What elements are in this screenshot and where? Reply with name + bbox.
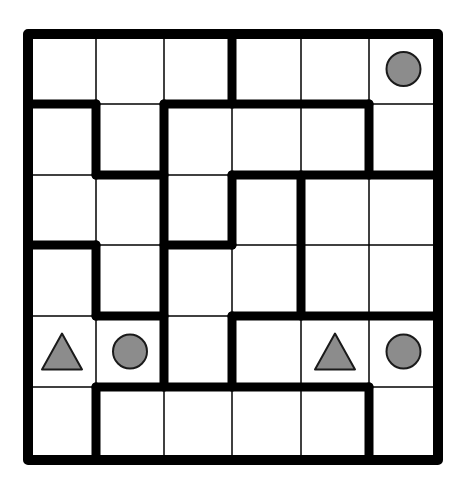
grid-cell[interactable]: [301, 175, 369, 245]
grid-cell[interactable]: [232, 175, 301, 245]
grid-cell[interactable]: [301, 34, 369, 104]
grid-cell[interactable]: [232, 34, 301, 104]
grid-cell[interactable]: [28, 104, 96, 175]
grid-cell[interactable]: [369, 245, 438, 316]
grid-cell[interactable]: [301, 387, 369, 460]
circle-icon: [113, 335, 147, 369]
grid-cell[interactable]: [164, 245, 232, 316]
grid-cell[interactable]: [301, 104, 369, 175]
grid-cell[interactable]: [232, 316, 301, 387]
grid-cell[interactable]: [369, 387, 438, 460]
grid-cell[interactable]: [164, 316, 232, 387]
grid-cell[interactable]: [28, 387, 96, 460]
puzzle-board: [0, 0, 465, 486]
grid-cell[interactable]: [369, 175, 438, 245]
grid-cell[interactable]: [164, 34, 232, 104]
circle-icon: [387, 335, 421, 369]
grid-cell[interactable]: [232, 387, 301, 460]
grid-cell[interactable]: [232, 104, 301, 175]
grid-cell[interactable]: [96, 245, 164, 316]
grid-cell[interactable]: [164, 387, 232, 460]
grid-cell[interactable]: [96, 34, 164, 104]
grid-cell[interactable]: [96, 175, 164, 245]
grid-cell[interactable]: [96, 387, 164, 460]
grid-cell[interactable]: [232, 245, 301, 316]
grid-cell[interactable]: [28, 245, 96, 316]
grid-cell[interactable]: [369, 104, 438, 175]
circle-icon: [387, 52, 421, 86]
grid-cell[interactable]: [96, 104, 164, 175]
grid-cell[interactable]: [164, 175, 232, 245]
grid-cell[interactable]: [28, 34, 96, 104]
grid-cell[interactable]: [301, 245, 369, 316]
grid-cell[interactable]: [28, 175, 96, 245]
grid-cell[interactable]: [164, 104, 232, 175]
